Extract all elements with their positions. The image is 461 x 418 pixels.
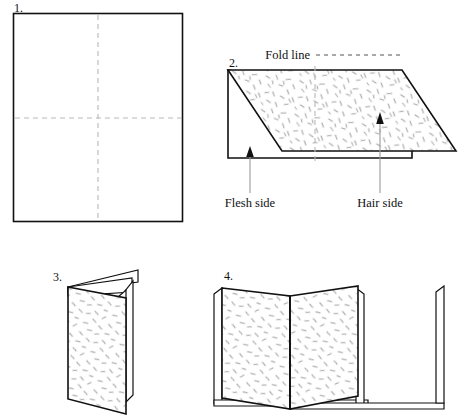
- hair-side-label: Hair side: [357, 196, 403, 210]
- parchment-folding-diagram: 1. 2. Fold line Flesh side: [0, 0, 461, 418]
- step-1-group: 1.: [14, 1, 183, 222]
- step-4-group: 4.: [214, 269, 444, 409]
- fold-line-label: Fold line: [265, 48, 310, 62]
- step-3-number: 3.: [53, 270, 62, 284]
- step-4-left-page-hair-side: [222, 288, 290, 409]
- step-4-number: 4.: [224, 269, 233, 283]
- step-4-right-edge-cover: [436, 286, 444, 403]
- step-4-right-page-hair-side: [290, 286, 358, 409]
- flesh-side-label: Flesh side: [225, 196, 276, 210]
- step-3-front-cover-hair-side: [68, 287, 126, 414]
- step-3-group: 3.: [53, 270, 138, 414]
- step-4-left-outer-cover: [214, 288, 222, 404]
- step-2-group: 2. Fold line Flesh side Hair side: [225, 48, 456, 210]
- figure-canvas: 1. 2. Fold line Flesh side: [0, 0, 461, 418]
- step-2-number: 2.: [229, 56, 238, 70]
